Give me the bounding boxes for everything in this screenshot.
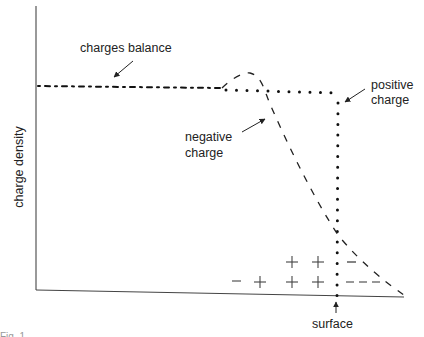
positive-charge-line-horizontal [226,90,338,93]
charge-density-diagram [0,0,424,337]
positive-charge-line-vertical [337,103,338,296]
surface-label: surface [312,317,353,332]
figure-caption: Fig. 1 [0,331,25,337]
charges-balance-label: charges balance [80,41,172,56]
x-axis [36,290,404,297]
positive-charge-label-line2: charge [371,93,409,108]
positive-charge-arrow [345,89,365,102]
charges-balance-arrow [114,61,133,77]
negative-charge-label-line1: negative [185,130,232,145]
negative-charge-label-line2: charge [185,146,223,161]
charges-balance-line [38,86,220,88]
positive-charge-label-line1: positive [371,78,413,93]
y-axis-label: charge density [12,112,26,222]
negative-charge-arrow [242,119,265,132]
charge-symbols [232,256,324,288]
